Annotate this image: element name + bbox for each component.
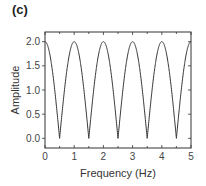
x-tick-label: 2 — [101, 151, 107, 162]
amplitude-chart: 0123450.00.51.01.52.0 Frequency (Hz) Amp… — [0, 0, 206, 186]
y-tick-label: 1.5 — [26, 60, 40, 71]
y-tick-label: 1.0 — [26, 85, 40, 96]
plot-frame — [45, 32, 191, 148]
y-tick-label: 0.0 — [26, 133, 40, 144]
x-tick-label: 0 — [42, 151, 48, 162]
x-tick-label: 5 — [188, 151, 194, 162]
x-axis-label: Frequency (Hz) — [80, 167, 156, 179]
x-tick-label: 4 — [159, 151, 165, 162]
y-axis-label: Amplitude — [9, 66, 21, 115]
x-tick-label: 3 — [130, 151, 136, 162]
y-tick-label: 2.0 — [26, 36, 40, 47]
tick-labels: 0123450.00.51.01.52.0 — [26, 36, 194, 162]
x-tick-label: 1 — [71, 151, 77, 162]
amplitude-curve — [45, 42, 191, 139]
y-tick-label: 0.5 — [26, 109, 40, 120]
